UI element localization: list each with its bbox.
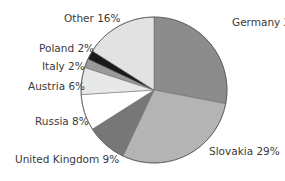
label-austria: Austria 6% <box>28 80 85 92</box>
slice-germany <box>154 17 227 104</box>
pie-slices <box>81 17 227 163</box>
label-germany: Germany 28% <box>232 16 285 28</box>
label-russia: Russia 8% <box>35 115 89 127</box>
label-italy: Italy 2% <box>42 60 85 72</box>
label-slovakia: Slovakia 29% <box>209 145 280 157</box>
label-united-kingdom: United Kingdom 9% <box>15 153 119 165</box>
label-poland: Poland 2% <box>39 42 94 54</box>
label-other: Other 16% <box>64 12 121 24</box>
